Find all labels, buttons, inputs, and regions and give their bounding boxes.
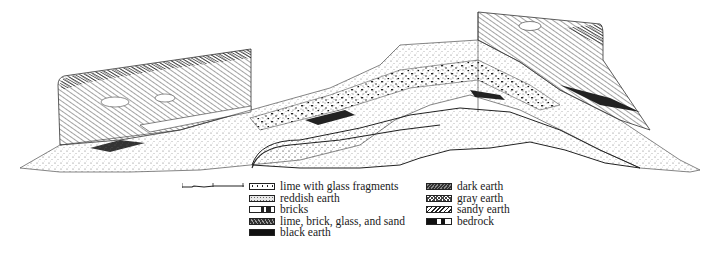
bricks-swatch-icon (249, 206, 275, 213)
lime-glass-swatch-icon (249, 183, 275, 190)
dark-earth-swatch-icon (426, 183, 452, 190)
legend-left-column: lime with glass fragments reddish earth … (249, 181, 449, 239)
lime-brick-glass-sand-swatch-icon (249, 218, 275, 225)
legend-label: dark earth (457, 181, 503, 193)
legend-right-column: dark earth gray earth sandy earth bedroc… (426, 181, 536, 227)
legend-label: lime with glass fragments (280, 181, 399, 193)
legend-item: bedrock (426, 216, 536, 228)
legend-item: lime, brick, glass, and sand (249, 216, 449, 228)
bedrock-swatch-icon (426, 218, 452, 225)
legend-label: bedrock (457, 216, 494, 228)
sandy-earth-swatch-icon (426, 206, 452, 213)
black-earth-swatch-icon (249, 229, 275, 236)
legend-item: lime with glass fragments (249, 181, 449, 193)
legend-item: dark earth (426, 181, 536, 193)
scale-bar (182, 181, 244, 189)
legend-item: reddish earth (249, 193, 449, 205)
gray-earth-swatch-icon (426, 195, 452, 202)
legend-label: black earth (280, 227, 331, 239)
stratigraphic-section-drawing (0, 0, 703, 180)
legend-item: black earth (249, 227, 449, 239)
reddish-earth-swatch-icon (249, 195, 275, 202)
